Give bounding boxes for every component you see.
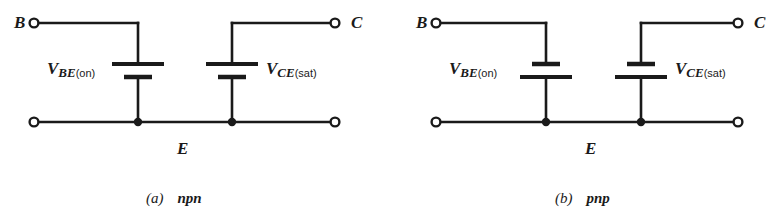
terminal-emitter-right	[734, 118, 743, 127]
junction-dot-base-emitter	[134, 118, 142, 126]
circuit-panel-npn: B C E VBE(on) VCE(sat) (a)npn	[0, 0, 391, 219]
figure-canvas: B C E VBE(on) VCE(sat) (a)npn	[0, 0, 782, 219]
caption-npn: (a)npn	[146, 190, 202, 207]
terminal-collector	[331, 19, 340, 28]
label-base-terminal: B	[14, 14, 25, 31]
terminal-collector	[734, 19, 743, 28]
battery-vbe-on	[520, 64, 572, 77]
label-vce-sat: VCE(sat)	[675, 60, 726, 79]
label-vbe-on: VBE(on)	[47, 60, 95, 79]
junction-dot-collector-emitter	[637, 118, 645, 126]
caption-pnp: (b)pnp	[555, 190, 610, 207]
battery-vce-sat	[206, 64, 258, 77]
label-emitter-terminal: E	[585, 140, 596, 157]
junction-dot-base-emitter	[542, 118, 550, 126]
terminal-base	[432, 19, 441, 28]
terminal-emitter-right	[331, 118, 340, 127]
battery-vbe-on	[112, 64, 164, 77]
label-base-terminal: B	[416, 14, 427, 31]
label-vbe-on: VBE(on)	[449, 60, 497, 79]
terminal-emitter-left	[30, 118, 39, 127]
battery-vce-sat	[615, 64, 667, 77]
label-collector-terminal: C	[351, 14, 362, 31]
npn-circuit-schematic	[0, 0, 391, 175]
terminal-emitter-left	[432, 118, 441, 127]
label-collector-terminal: C	[754, 14, 765, 31]
label-emitter-terminal: E	[177, 140, 188, 157]
circuit-panel-pnp: B C E VBE(on) VCE(sat) (b)pnp	[391, 0, 782, 219]
junction-dot-collector-emitter	[228, 118, 236, 126]
terminal-base	[30, 19, 39, 28]
label-vce-sat: VCE(sat)	[266, 60, 317, 79]
